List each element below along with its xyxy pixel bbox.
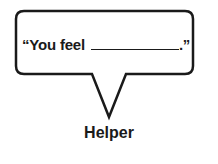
quote-prefix: “You feel <box>22 36 85 53</box>
fill-in-blank <box>91 36 179 50</box>
speech-bubble-text: “You feel .” <box>22 36 190 53</box>
speaker-label: Helper <box>0 124 218 142</box>
quote-suffix: .” <box>179 36 190 53</box>
